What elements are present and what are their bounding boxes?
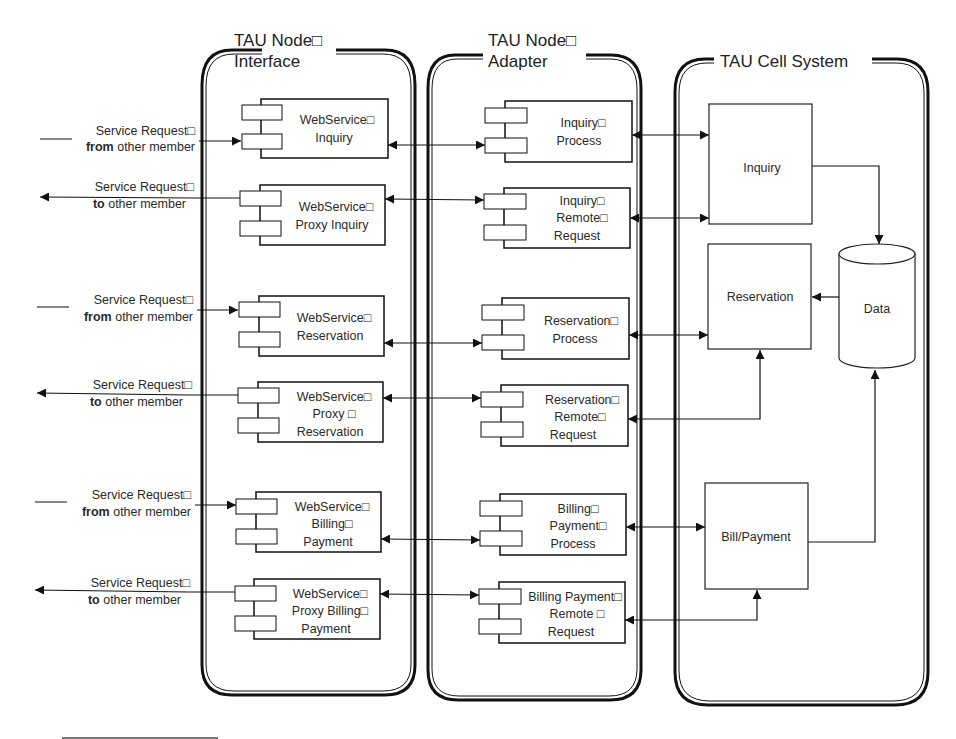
svg-text:Proxy Inquiry: Proxy Inquiry xyxy=(296,218,370,232)
svg-text:Payment: Payment xyxy=(301,622,351,636)
svg-text:Service Request□: Service Request□ xyxy=(96,124,196,138)
svg-text:Data: Data xyxy=(864,302,890,316)
svg-text:Billing□: Billing□ xyxy=(312,517,353,531)
external-request-in: Service Request□ from other member xyxy=(37,293,193,324)
interface-title-line1: TAU Node□ xyxy=(234,31,322,50)
svg-text:Service Request□: Service Request□ xyxy=(95,180,195,194)
svg-text:WebService□: WebService□ xyxy=(293,587,368,601)
svg-text:Remote□: Remote□ xyxy=(554,410,606,424)
adapter-component-reservation-process: Reservation□ Process xyxy=(482,298,629,359)
adapter-component-inquiry-process: Inquiry□ Process xyxy=(485,101,632,162)
svg-text:Service Request□: Service Request□ xyxy=(91,576,191,590)
svg-text:Process: Process xyxy=(550,537,595,551)
external-request-in: Service Request□ from other member xyxy=(35,488,191,519)
external-requests: Service Request□ from other member Servi… xyxy=(35,124,195,607)
svg-text:to other member: to other member xyxy=(88,593,181,607)
svg-text:Request: Request xyxy=(550,428,597,442)
svg-text:Request: Request xyxy=(554,229,601,243)
interface-component-webservice-proxy-billing-payment: WebService□ Proxy Billing□ Payment xyxy=(235,579,380,639)
svg-text:Reservation: Reservation xyxy=(297,425,364,439)
svg-text:from other member: from other member xyxy=(82,505,191,519)
cell-module-inquiry: Inquiry xyxy=(709,104,812,224)
interface-component-webservice-inquiry: WebService□ Inquiry xyxy=(242,99,388,158)
interface-title-line2: Interface xyxy=(234,52,300,71)
svg-text:to other member: to other member xyxy=(90,395,183,409)
svg-text:Request: Request xyxy=(548,625,595,639)
interface-component-webservice-billing-payment: WebService□ Billing□ Payment xyxy=(236,492,381,552)
svg-text:Billing Payment□: Billing Payment□ xyxy=(528,590,622,604)
adapter-title-line1: TAU Node□ xyxy=(488,31,576,50)
interface-component-webservice-reservation: WebService□ Reservation xyxy=(239,296,384,356)
svg-text:Service Request□: Service Request□ xyxy=(92,488,192,502)
svg-text:from other member: from other member xyxy=(84,310,193,324)
adapter-component-inquiry-remote-request: Inquiry□ Remote□ Request xyxy=(484,188,630,248)
svg-text:from other member: from other member xyxy=(86,140,195,154)
svg-text:WebService□: WebService□ xyxy=(295,500,370,514)
svg-text:Remote□: Remote□ xyxy=(556,211,608,225)
svg-text:to other member: to other member xyxy=(93,197,186,211)
svg-text:Reservation□: Reservation□ xyxy=(545,393,620,407)
svg-text:Inquiry□: Inquiry□ xyxy=(560,116,606,130)
svg-text:Inquiry: Inquiry xyxy=(743,161,781,175)
svg-text:Process: Process xyxy=(552,332,597,346)
svg-text:Service Request□: Service Request□ xyxy=(94,293,194,307)
svg-text:Reservation: Reservation xyxy=(297,329,364,343)
adapter-component-reservation-remote-request: Reservation□ Remote□ Request xyxy=(481,385,628,446)
svg-text:Bill/Payment: Bill/Payment xyxy=(721,530,791,544)
adapter-title-line2: Adapter xyxy=(488,52,548,71)
external-request-in: Service Request□ from other member xyxy=(40,124,195,154)
svg-text:WebService□: WebService□ xyxy=(297,311,372,325)
interface-component-webservice-proxy-inquiry: WebService□ Proxy Inquiry xyxy=(240,185,385,245)
datastore-data-cylinder: Data xyxy=(839,244,915,368)
svg-text:Reservation: Reservation xyxy=(727,290,794,304)
svg-text:Remote □: Remote □ xyxy=(550,607,605,621)
architecture-diagram: TAU Node□ Interface TAU Node□ Adapter TA… xyxy=(0,0,956,739)
cell-module-reservation: Reservation xyxy=(708,244,811,349)
external-request-out: Service Request□ to other member xyxy=(93,180,195,211)
svg-text:Payment□: Payment□ xyxy=(550,519,607,533)
svg-text:WebService□: WebService□ xyxy=(300,113,375,127)
svg-text:Payment: Payment xyxy=(303,535,353,549)
svg-text:Process: Process xyxy=(556,134,601,148)
svg-text:WebService□: WebService□ xyxy=(297,390,372,404)
svg-text:Billing□: Billing□ xyxy=(558,502,599,516)
cell-module-bill-payment: Bill/Payment xyxy=(705,483,808,589)
interface-component-webservice-proxy-reservation: WebService□ Proxy □ Reservation xyxy=(238,382,383,442)
svg-text:Inquiry□: Inquiry□ xyxy=(559,194,605,208)
adapter-component-billing-payment-process: Billing□ Payment□ Process xyxy=(480,494,626,555)
svg-text:Reservation□: Reservation□ xyxy=(544,314,619,328)
svg-text:Inquiry: Inquiry xyxy=(315,131,353,145)
svg-text:Service Request□: Service Request□ xyxy=(93,378,193,392)
svg-text:WebService□: WebService□ xyxy=(299,200,374,214)
svg-text:Proxy Billing□: Proxy Billing□ xyxy=(292,604,369,618)
cell-system-title: TAU Cell System xyxy=(720,52,848,71)
adapter-component-billing-payment-remote-request: Billing Payment□ Remote □ Request xyxy=(479,582,625,643)
svg-text:Proxy □: Proxy □ xyxy=(313,407,356,421)
